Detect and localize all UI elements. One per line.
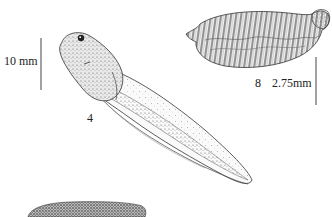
specimen-number-4: 4 — [87, 112, 93, 124]
specimen-8 — [186, 10, 330, 68]
scale-label-2-75mm: 2.75mm — [272, 77, 312, 89]
eye — [78, 35, 84, 41]
bottom-specimen — [28, 202, 146, 217]
figure-plate — [0, 0, 332, 217]
scale-label-10mm: 10 mm — [4, 55, 38, 67]
specimen-number-8: 8 — [255, 77, 261, 89]
